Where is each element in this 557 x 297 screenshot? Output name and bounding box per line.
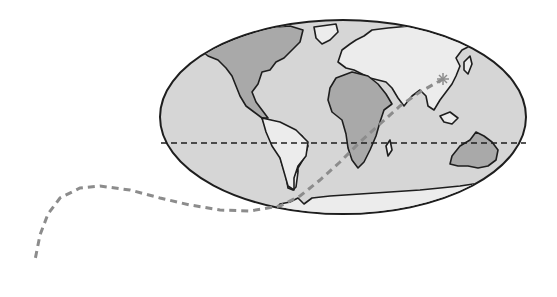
world-map	[0, 0, 557, 297]
